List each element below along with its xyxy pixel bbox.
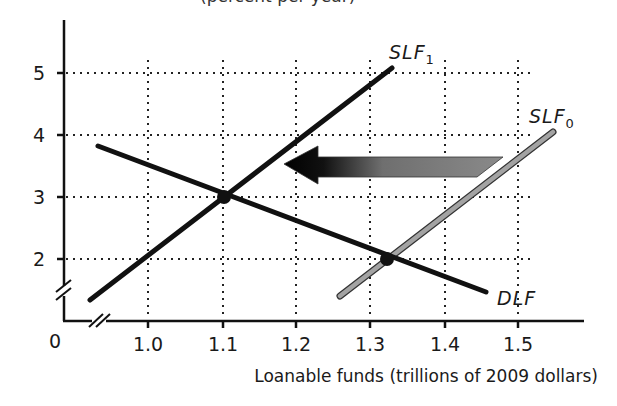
svg-text:1.5: 1.5 <box>503 333 533 355</box>
equilibrium-point-new <box>217 190 231 204</box>
slf1-curve <box>90 68 392 300</box>
dlf-label: DLF <box>497 287 536 309</box>
equilibrium-point-initial <box>380 252 394 266</box>
cropped-axis-title: (percent per year) <box>200 0 355 6</box>
svg-text:4: 4 <box>33 124 45 146</box>
slf1-label: SLF1 <box>389 41 435 67</box>
x-tick-labels: 1.0 1.1 1.2 1.3 1.4 1.5 <box>133 333 533 355</box>
svg-text:1.4: 1.4 <box>430 333 460 355</box>
svg-text:5: 5 <box>33 62 45 84</box>
svg-text:1.1: 1.1 <box>208 333 238 355</box>
y-tick-labels: 5 4 3 2 0 <box>33 62 61 352</box>
svg-text:1.2: 1.2 <box>281 333 311 355</box>
svg-text:1.3: 1.3 <box>355 333 385 355</box>
svg-text:3: 3 <box>33 186 45 208</box>
x-axis-title: Loanable funds (trillions of 2009 dollar… <box>254 366 598 386</box>
grid <box>66 60 535 318</box>
svg-text:2: 2 <box>33 248 45 270</box>
supply-shift-arrow-icon <box>284 146 503 184</box>
slf0-label: SLF0 <box>529 105 575 131</box>
origin-label: 0 <box>49 330 61 352</box>
loanable-funds-chart: (percent per year) <box>0 0 617 406</box>
svg-text:1.0: 1.0 <box>133 333 163 355</box>
